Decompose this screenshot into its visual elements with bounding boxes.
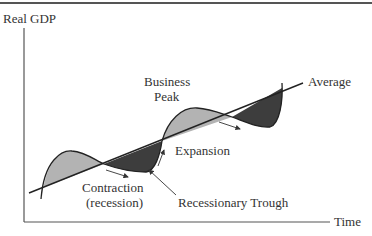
contraction-arrow	[106, 170, 128, 177]
trough-arrow	[149, 170, 176, 195]
average-label: Average	[308, 74, 351, 89]
y-axis-label: Real GDP	[3, 11, 56, 26]
peak-label-line-1: Business	[144, 74, 190, 89]
expansion-label: Expansion	[175, 143, 230, 158]
business-cycle-diagram: Real GDP Time Average Business Peak Expa…	[0, 0, 372, 236]
expansion-2-arrow	[219, 122, 240, 129]
contraction-label-line-2: (recession)	[86, 195, 143, 210]
peak-label-line-2: Peak	[154, 89, 180, 104]
trough-label: Recessionary Trough	[178, 195, 289, 210]
contraction-label-line-1: Contraction	[82, 180, 144, 195]
x-axis-label: Time	[334, 214, 361, 229]
